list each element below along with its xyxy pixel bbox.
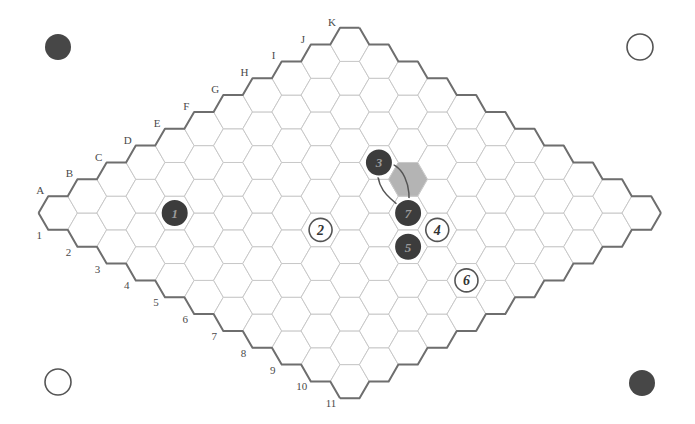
row-label-11: 11	[326, 397, 337, 409]
hex-board-diagram: ABCDEFGHIJK1234567891011 1234567	[0, 0, 695, 424]
column-label-a: A	[36, 184, 44, 196]
column-label-f: F	[183, 100, 189, 112]
stone-black-move-1: 1	[161, 199, 189, 227]
move-number: 6	[463, 273, 470, 288]
column-label-h: H	[241, 66, 249, 78]
hex-grid	[39, 28, 661, 399]
corner-bottom-left-white-icon	[45, 369, 71, 395]
move-number: 4	[433, 223, 441, 238]
column-label-k: K	[328, 16, 336, 28]
corner-top-right-white-icon	[627, 34, 653, 60]
hex-board: ABCDEFGHIJK1234567891011 1234567	[0, 0, 695, 424]
move-number: 2	[316, 223, 324, 238]
move-number: 5	[405, 240, 412, 255]
corner-bottom-right-black-icon	[629, 370, 655, 396]
move-number: 7	[405, 206, 412, 221]
row-label-7: 7	[212, 330, 218, 342]
move-number: 3	[375, 155, 383, 170]
stone-black-move-3: 3	[365, 148, 393, 176]
stone-black-move-7: 7	[394, 199, 422, 227]
column-label-e: E	[154, 117, 161, 129]
column-label-j: J	[301, 33, 306, 45]
stone-white-move-6: 6	[452, 266, 480, 294]
column-label-c: C	[95, 151, 102, 163]
row-label-10: 10	[296, 380, 308, 392]
stone-white-move-2: 2	[307, 216, 335, 244]
row-label-2: 2	[66, 246, 72, 258]
row-label-6: 6	[182, 313, 188, 325]
stone-white-move-4: 4	[423, 216, 451, 244]
column-label-d: D	[124, 134, 132, 146]
row-label-1: 1	[37, 229, 43, 241]
column-label-g: G	[211, 83, 219, 95]
column-label-i: I	[272, 49, 276, 61]
corner-top-left-black-icon	[45, 34, 71, 60]
row-label-4: 4	[124, 279, 130, 291]
row-label-9: 9	[270, 364, 276, 376]
stone-black-move-5: 5	[394, 233, 422, 261]
row-label-8: 8	[241, 347, 247, 359]
row-label-3: 3	[95, 263, 101, 275]
move-number: 1	[171, 206, 178, 221]
row-label-5: 5	[153, 296, 159, 308]
column-label-b: B	[66, 167, 73, 179]
